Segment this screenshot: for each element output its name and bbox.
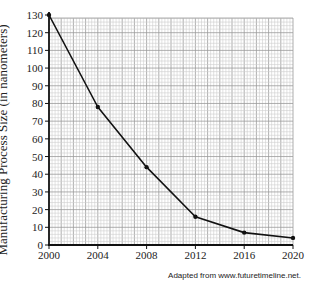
y-tick-label: 70	[32, 115, 44, 127]
x-tick-label: 2000	[38, 249, 61, 261]
data-point-marker	[291, 236, 295, 240]
data-point-marker	[96, 105, 100, 109]
y-tick-label: 90	[32, 80, 44, 92]
y-tick-label: 50	[32, 151, 44, 163]
y-tick-label: 120	[27, 27, 44, 39]
x-tick-label: 2016	[233, 249, 256, 261]
y-tick-label: 40	[32, 168, 44, 180]
y-tick-label: 110	[27, 44, 44, 56]
y-axis-label-text: Manufacturing Process Size (in nanometer…	[0, 24, 11, 255]
x-tick-label: 2008	[136, 249, 159, 261]
y-tick-label: 30	[32, 186, 44, 198]
data-point-marker	[193, 214, 197, 218]
x-tick-label: 2004	[87, 249, 110, 261]
y-tick-label: 130	[27, 9, 44, 21]
y-tick-label: 10	[32, 221, 44, 233]
y-tick-label: 100	[27, 62, 44, 74]
y-tick-label: 60	[32, 133, 44, 145]
line-chart: 0102030405060708090100110120130200020042…	[0, 0, 315, 291]
x-tick-label: 2012	[184, 249, 206, 261]
x-tick-label: 2020	[282, 249, 305, 261]
data-point-marker	[144, 165, 148, 169]
y-tick-label: 80	[32, 97, 44, 109]
source-note: Adapted from www.futuretimeline.net.	[168, 271, 301, 280]
y-tick-label: 20	[32, 204, 44, 216]
data-point-marker	[47, 13, 51, 17]
data-point-marker	[242, 230, 246, 234]
